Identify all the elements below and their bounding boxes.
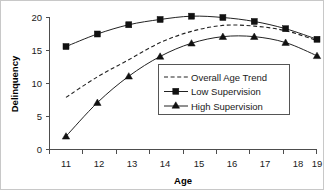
data-point-marker [220,15,226,21]
data-point-marker [283,26,289,32]
x-axis-title: Age [174,175,192,186]
y-axis-title: Delinquency [9,55,20,112]
data-point-marker [189,13,195,19]
y-axis-tick-labels: 0 5 10 15 20 [31,12,42,155]
legend-label-high-supervision: High Supervision [191,101,263,112]
data-point-marker [251,18,257,24]
data-point-marker [126,22,132,28]
x-axis-ticks [50,150,317,155]
data-point-marker [313,52,320,58]
y-tick-label-0: 0 [37,144,42,155]
x-tick-label-19: 19 [312,158,323,169]
data-point-marker [156,53,163,59]
x-axis-tick-labels: 11 12 13 14 15 16 17 18 19 [61,158,322,169]
data-point-marker [314,36,320,42]
x-tick-label-18: 18 [293,158,304,169]
data-point-marker [157,16,163,22]
y-axis: 0 5 10 15 20 Delinquency [9,12,50,155]
square-marker-icon [173,88,179,94]
x-tick-label-13: 13 [127,158,138,169]
y-tick-label-15: 15 [31,45,42,56]
y-tick-label-5: 5 [37,111,42,122]
y-axis-ticks [46,18,50,150]
data-point-marker [94,31,100,37]
x-tick-label-11: 11 [61,158,71,169]
x-axis: 11 12 13 14 15 16 17 18 19 Age [50,150,323,187]
delinquency-by-age-line-chart: 0 5 10 15 20 Delinquency [1,1,324,190]
x-tick-label-15: 15 [194,158,205,169]
legend-label-low-supervision: Low Supervision [191,86,261,97]
x-tick-label-17: 17 [260,158,271,169]
y-tick-label-20: 20 [31,12,42,23]
legend-label-overall-age-trend: Overall Age Trend [191,72,267,83]
chart-legend: Overall Age Trend Low Supervision High S… [159,65,290,115]
x-tick-label-14: 14 [160,158,171,169]
x-tick-label-16: 16 [227,158,238,169]
data-point-marker [63,44,69,50]
chart-figure: 0 5 10 15 20 Delinquency [0,0,324,190]
data-point-marker [125,73,132,79]
x-tick-label-12: 12 [94,158,105,169]
y-tick-label-10: 10 [31,78,42,89]
